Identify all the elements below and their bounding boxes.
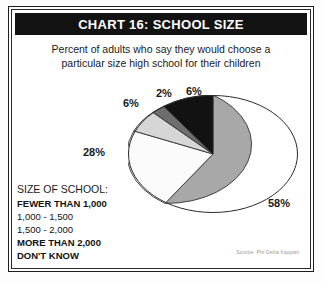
pie-label-more-than-2000: 2% [156, 88, 172, 99]
source-credit: Source: Phi Delta Kappan [236, 250, 299, 255]
pie-label-dont-know: 6% [186, 86, 202, 97]
legend: SIZE OF SCHOOL: FEWER THAN 1,000 1,000 -… [17, 183, 157, 262]
legend-item-fewer-than-1000: FEWER THAN 1,000 [17, 197, 157, 210]
chart-subtitle-line-2: particular size high school for their ch… [22, 56, 300, 70]
legend-item-1000-1500: 1,000 - 1,500 [17, 210, 157, 223]
legend-item-1500-2000: 1,500 - 2,000 [17, 223, 157, 236]
chart-title-banner: CHART 16: SCHOOL SIZE [15, 13, 307, 35]
chart-page: CHART 16: SCHOOL SIZE Percent of adults … [0, 0, 324, 283]
chart-subtitle-line-1: Percent of adults who say they would cho… [22, 42, 300, 56]
chart-subtitle: Percent of adults who say they would cho… [22, 42, 300, 70]
pie-label-1500-2000: 6% [123, 98, 139, 109]
pie-label-fewer-than-1000: 58% [268, 198, 290, 209]
pie-label-1000-1500: 28% [83, 147, 105, 158]
legend-title: SIZE OF SCHOOL: [17, 183, 157, 196]
legend-item-dont-know: DON'T KNOW [17, 249, 157, 262]
page-title: CHART 16: SCHOOL SIZE [78, 18, 244, 31]
legend-item-more-than-2000: MORE THAN 2,000 [17, 236, 157, 249]
